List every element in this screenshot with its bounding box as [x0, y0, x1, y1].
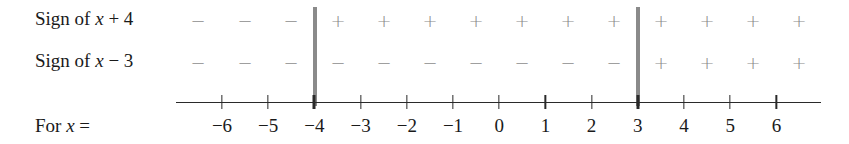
tick-label: 1 — [541, 115, 551, 137]
axis-label: For x = — [35, 115, 90, 137]
axis-tick — [268, 95, 269, 109]
sign-x-minus-3: − — [237, 52, 252, 73]
axis-tick — [360, 95, 361, 109]
axis-tick — [776, 95, 777, 109]
axis-tick — [591, 95, 592, 109]
axis-tick — [452, 95, 453, 109]
sign-x-plus-4: + — [606, 10, 621, 31]
tick-label: 0 — [494, 115, 504, 137]
sign-x-minus-3: − — [560, 52, 575, 73]
sign-x-minus-3: − — [468, 52, 483, 73]
tick-label: −3 — [350, 115, 370, 137]
sign-x-plus-4: + — [514, 10, 529, 31]
sign-x-plus-4: + — [422, 10, 437, 31]
axis-tick — [683, 95, 684, 109]
sign-x-plus-4: + — [791, 10, 806, 31]
tick-label: 5 — [725, 115, 735, 137]
sign-x-plus-4: − — [190, 10, 205, 31]
sign-x-plus-4: + — [330, 10, 345, 31]
axis-tick — [221, 95, 222, 109]
tick-label: −2 — [397, 115, 417, 137]
sign-x-minus-3: − — [330, 52, 345, 73]
tick-label: 6 — [772, 115, 782, 137]
axis-tick — [313, 95, 316, 109]
tick-label: 2 — [587, 115, 597, 137]
tick-label: 4 — [679, 115, 689, 137]
tick-label: −4 — [304, 115, 324, 137]
sign-x-minus-3: − — [376, 52, 391, 73]
sign-x-minus-3: − — [422, 52, 437, 73]
row-label-x-plus-4: Sign of x + 4 — [35, 8, 133, 30]
critical-line-minus-4 — [313, 7, 317, 106]
sign-x-plus-4: + — [468, 10, 483, 31]
critical-line-3 — [636, 7, 640, 106]
tick-label: 3 — [633, 115, 643, 137]
sign-x-minus-3: − — [283, 52, 298, 73]
sign-x-minus-3: + — [791, 52, 806, 73]
sign-x-minus-3: − — [606, 52, 621, 73]
axis-tick — [406, 95, 407, 109]
sign-x-minus-3: + — [653, 52, 668, 73]
tick-label: −6 — [212, 115, 232, 137]
sign-x-minus-3: + — [745, 52, 760, 73]
axis-tick — [545, 95, 546, 109]
axis-tick — [499, 95, 500, 109]
sign-x-plus-4: + — [560, 10, 575, 31]
tick-label: −5 — [258, 115, 278, 137]
sign-x-plus-4: + — [376, 10, 391, 31]
sign-x-plus-4: + — [745, 10, 760, 31]
tick-label: −1 — [443, 115, 463, 137]
sign-x-minus-3: − — [514, 52, 529, 73]
sign-x-plus-4: − — [237, 10, 252, 31]
sign-x-plus-4: − — [283, 10, 298, 31]
axis-tick — [636, 95, 639, 109]
sign-x-plus-4: + — [653, 10, 668, 31]
axis-tick — [730, 95, 731, 109]
sign-x-plus-4: + — [699, 10, 714, 31]
sign-x-minus-3: + — [699, 52, 714, 73]
row-label-x-minus-3: Sign of x − 3 — [35, 50, 133, 72]
sign-x-minus-3: − — [190, 52, 205, 73]
